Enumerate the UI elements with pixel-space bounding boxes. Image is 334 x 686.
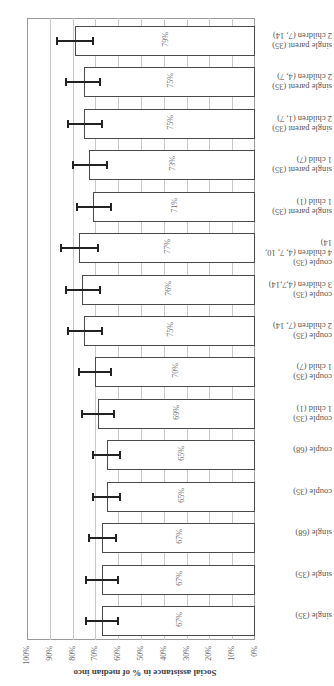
error-bar-cap	[117, 576, 119, 584]
error-bar	[73, 164, 107, 166]
error-bar	[68, 123, 102, 125]
bar-value-label: 65%	[177, 446, 186, 461]
error-bar-cap	[99, 286, 101, 294]
bar-value-label: 67%	[175, 571, 184, 586]
bar-value-label: 76%	[164, 281, 173, 296]
tick-label: 100%	[22, 646, 31, 665]
bar-value-label: 71%	[170, 198, 179, 213]
error-bar-cap	[119, 493, 121, 501]
bar-value-label: 67%	[175, 529, 184, 544]
error-bar-cap	[72, 161, 74, 169]
error-bar	[66, 289, 100, 291]
tick-label: 90%	[45, 646, 54, 661]
error-bar-cap	[113, 410, 115, 418]
error-bar-cap	[110, 203, 112, 211]
category-label: single (68)	[262, 528, 332, 538]
bar-value-label: 67%	[175, 612, 184, 627]
error-bar	[61, 247, 97, 249]
tick-label: 20%	[204, 646, 213, 661]
error-bar-cap	[110, 368, 112, 376]
bar-value-label: 73%	[168, 156, 177, 171]
error-bar	[93, 496, 120, 498]
error-bar-cap	[101, 327, 103, 335]
bar-value-label: 79%	[161, 32, 170, 47]
tick-label: 40%	[159, 646, 168, 661]
tick-label: 10%	[227, 646, 236, 661]
error-bar-cap	[78, 368, 80, 376]
category-label: single parent (35) 1 child (1)	[262, 197, 332, 217]
gridline	[73, 18, 74, 640]
error-bar	[77, 206, 111, 208]
error-bar-cap	[85, 617, 87, 625]
category-label: single parent (35) 2 children (1, 7)	[262, 114, 332, 134]
bar-value-label: 75%	[166, 322, 175, 337]
error-bar-cap	[99, 78, 101, 86]
bar-value-label: 77%	[163, 239, 172, 254]
tick-label: 50%	[136, 646, 145, 661]
error-bar-cap	[81, 410, 83, 418]
error-bar	[79, 371, 111, 373]
error-bar-cap	[56, 37, 58, 45]
error-bar-cap	[76, 203, 78, 211]
category-label: couple (68)	[262, 445, 332, 455]
error-bar-cap	[88, 534, 90, 542]
bar-value-label: 65%	[177, 488, 186, 503]
error-bar	[66, 81, 100, 83]
error-bar-cap	[117, 617, 119, 625]
category-label: single (35)	[262, 570, 332, 580]
error-bar-cap	[67, 327, 69, 335]
bar-value-label: 69%	[172, 405, 181, 420]
error-bar-cap	[65, 286, 67, 294]
error-bar	[82, 413, 114, 415]
error-bar	[68, 330, 102, 332]
chart-stage: 67%single (35)67%single (35)67%single (6…	[0, 0, 334, 686]
tick-label: 0%	[250, 646, 259, 657]
axis-title: Social assistance in % of median inco	[60, 668, 230, 678]
error-bar-cap	[60, 244, 62, 252]
category-label: single parent (35) 2 children (4, 7)	[262, 72, 332, 92]
gridline	[50, 18, 51, 640]
category-label: couple (35) 3 children (4,7,14)	[262, 280, 332, 300]
error-bar-cap	[92, 493, 94, 501]
category-label: couple (35) 1 child (1)	[262, 404, 332, 424]
bar-value-label: 75%	[166, 73, 175, 88]
tick-label: 60%	[113, 646, 122, 661]
error-bar-cap	[101, 120, 103, 128]
category-label: couple (35) 2 children (7, 14)	[262, 321, 332, 341]
error-bar-cap	[97, 244, 99, 252]
category-label: single parent (35) 2 children (7, 14)	[262, 31, 332, 51]
tick-label: 80%	[68, 646, 77, 661]
error-bar-cap	[115, 534, 117, 542]
error-bar	[86, 579, 118, 581]
error-bar	[93, 454, 120, 456]
category-label: single (35)	[262, 611, 332, 621]
error-bar	[57, 40, 93, 42]
category-label: single parent (35) 1 child (7)	[262, 155, 332, 175]
category-label: couple (35) 1 child (7)	[262, 362, 332, 382]
error-bar-cap	[119, 451, 121, 459]
error-bar-cap	[92, 37, 94, 45]
error-bar	[89, 537, 116, 539]
error-bar-cap	[85, 576, 87, 584]
error-bar-cap	[67, 120, 69, 128]
bar-value-label: 75%	[166, 115, 175, 130]
tick-label: 30%	[182, 646, 191, 661]
error-bar-cap	[65, 78, 67, 86]
category-label: couple (35)	[262, 487, 332, 497]
bar-value-label: 70%	[171, 363, 180, 378]
error-bar	[86, 620, 118, 622]
error-bar-cap	[106, 161, 108, 169]
tick-label: 70%	[90, 646, 99, 661]
error-bar-cap	[92, 451, 94, 459]
category-label: couple (35) 4 children (4, 7, 10, 14)	[262, 238, 332, 268]
